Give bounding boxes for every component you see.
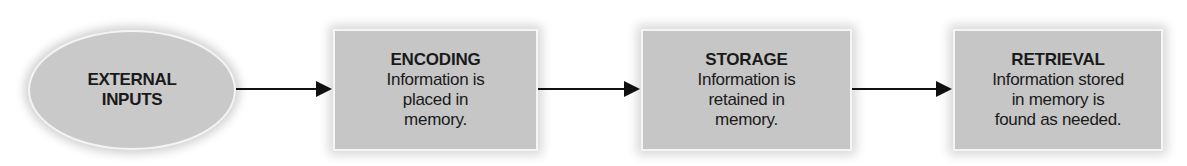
storage-title: STORAGE [705, 50, 787, 70]
encoding-desc-line-1: Information is [387, 70, 485, 90]
retrieval-title: RETRIEVAL [1011, 50, 1104, 70]
encoding-title: ENCODING [390, 50, 480, 70]
arrow-storage-to-retrieval [852, 88, 938, 90]
retrieval-desc-line-1: Information stored [992, 70, 1124, 90]
external-inputs-label: EXTERNAL INPUTS [72, 70, 192, 110]
external-inputs-line-2: INPUTS [72, 90, 192, 110]
arrowhead-icon [316, 81, 332, 97]
arrowhead-icon [936, 81, 952, 97]
retrieval-node: RETRIEVAL Information stored in memory i… [953, 29, 1163, 151]
external-inputs-line-1: EXTERNAL [72, 70, 192, 90]
encoding-node: ENCODING Information is placed in memory… [333, 29, 538, 151]
storage-desc-line-3: memory. [715, 110, 778, 130]
arrow-inputs-to-encoding [236, 88, 318, 90]
arrow-encoding-to-storage [538, 88, 626, 90]
external-inputs-node: EXTERNAL INPUTS [28, 30, 236, 150]
retrieval-desc-line-3: found as needed. [995, 110, 1122, 130]
storage-node: STORAGE Information is retained in memor… [641, 29, 852, 151]
encoding-desc-line-2: placed in [403, 90, 468, 110]
retrieval-desc-line-2: in memory is [1012, 90, 1105, 110]
encoding-desc-line-3: memory. [404, 110, 467, 130]
arrowhead-icon [624, 81, 640, 97]
storage-desc-line-1: Information is [698, 70, 796, 90]
storage-desc-line-2: retained in [708, 90, 784, 110]
